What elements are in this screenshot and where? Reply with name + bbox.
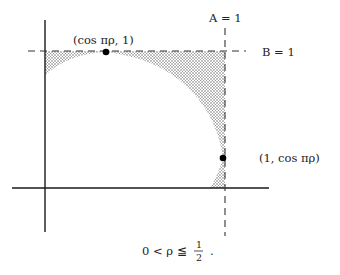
label-point-top: (cos πρ, 1) [73, 33, 134, 47]
label-condition-end: . [210, 244, 214, 258]
label-line-b: B = 1 [262, 45, 295, 59]
point-top [103, 49, 110, 56]
label-line-a: A = 1 [208, 11, 242, 25]
shaded-region [45, 51, 225, 188]
label-fraction-numerator: 1 [196, 239, 202, 250]
label-fraction-denominator: 2 [196, 252, 202, 263]
point-right [220, 155, 227, 162]
region-diagram: (cos πρ, 1) (1, cos πρ) A = 1 B = 1 0 < … [0, 0, 340, 275]
label-point-right: (1, cos πρ) [259, 151, 320, 165]
label-condition: 0 < ρ ≦ [142, 244, 187, 258]
